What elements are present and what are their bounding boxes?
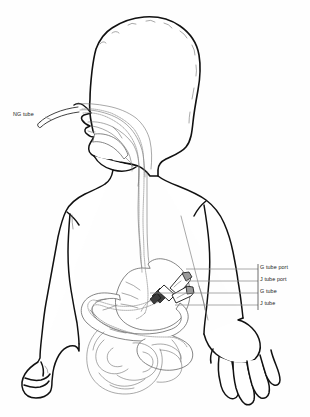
leader-ng-tube [45,117,52,120]
ng-leader-group [45,117,52,120]
callout-label-g-tube-port: G tube port [260,265,288,270]
jejunum-loop [137,336,193,370]
esophagus-right-wall [147,172,150,267]
torso-outline [38,170,113,362]
callout-label-g-tube: G tube [260,289,277,294]
ng-tube-external-cap [38,122,41,128]
ng-tube-external-upper [40,107,78,122]
intestine-loop-6 [99,373,145,386]
left-hand [22,344,79,398]
diagram-root: NG tube G tube port J tube port G tube J… [0,0,310,417]
right-thumb [211,349,213,363]
transverse-colon [93,332,104,350]
callout-label-j-tube-port: J tube port [260,277,287,282]
ng-tube-external-lower [41,112,79,127]
left-hand-group [22,344,79,398]
esophagus-left-wall [138,167,142,269]
intestine-loop-1 [96,340,128,374]
ng-tube-label: NG tube [13,112,34,117]
right-hand-group [204,318,280,405]
right-hand [204,318,260,363]
anatomy-illustration [0,0,310,417]
intestine-loop-2 [107,348,122,367]
callout-label-j-tube: J tube [260,301,275,306]
